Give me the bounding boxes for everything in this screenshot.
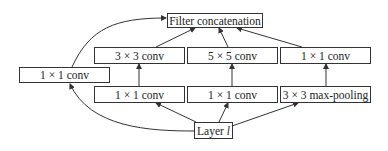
conv1x1-left-node: 1 × 1 conv bbox=[19, 67, 110, 83]
edge-conv1x1-pool-to-concat bbox=[237, 28, 302, 47]
node-label-prefix: Layer bbox=[197, 125, 227, 137]
node-label: 1 × 1 conv bbox=[301, 50, 350, 62]
edge-conv3x3-to-concat bbox=[156, 28, 195, 47]
conv1x1-pool-branch-node: 1 × 1 conv bbox=[280, 47, 371, 64]
node-label: 3 × 3 max-pooling bbox=[283, 89, 368, 101]
conv3x3-node: 3 × 3 conv bbox=[94, 47, 185, 64]
node-label: 3 × 3 conv bbox=[115, 50, 164, 62]
edge-layer-to-maxpool bbox=[232, 103, 298, 126]
maxpool-node: 3 × 3 max-pooling bbox=[280, 86, 371, 103]
layer-l-node: Layer l bbox=[194, 122, 233, 139]
conv5x5-node: 5 × 5 conv bbox=[187, 47, 278, 64]
edge-layer-to-conv1x1-b bbox=[219, 103, 228, 122]
edge-conv5x5-to-concat bbox=[219, 28, 228, 47]
node-label: 1 × 1 conv bbox=[115, 89, 164, 101]
conv1x1-b-node: 1 × 1 conv bbox=[187, 86, 278, 103]
node-label: 1 × 1 conv bbox=[208, 89, 257, 101]
node-label: 1 × 1 conv bbox=[40, 69, 89, 81]
filter-concatenation-node: Filter concatenation bbox=[167, 13, 263, 28]
inception-module-diagram: Filter concatenation 3 × 3 conv 5 × 5 co… bbox=[0, 0, 388, 151]
node-label: Filter concatenation bbox=[169, 15, 261, 27]
node-label-variable: l bbox=[227, 125, 230, 137]
edge-layer-to-conv1x1-a bbox=[156, 103, 196, 122]
node-label: 5 × 5 conv bbox=[208, 50, 257, 62]
conv1x1-a-node: 1 × 1 conv bbox=[94, 86, 185, 103]
